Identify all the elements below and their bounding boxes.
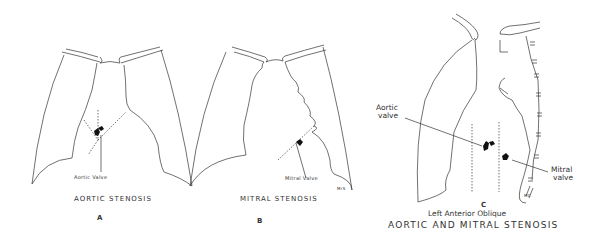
aortic-calcification-a <box>94 126 104 136</box>
figure-a-drawing <box>32 47 192 186</box>
figure-c-initials: MC <box>524 193 531 198</box>
mitral-calcification-c <box>502 153 509 160</box>
figure-b-initials: MrS <box>337 186 346 191</box>
figure-a-title: AORTIC STENOSIS <box>74 195 152 203</box>
figure-c-drawing <box>405 14 548 203</box>
mitral-valve-label-b: Mitral Valve <box>285 175 318 181</box>
aortic-valve-label-c-line2: valve <box>378 111 398 120</box>
aortic-valve-label-a: Aortic Valve <box>74 174 107 180</box>
mitral-calcification-b <box>296 139 303 146</box>
figure-c-letter: C <box>481 201 486 209</box>
figure-a-letter: A <box>97 214 102 222</box>
figure-b-letter: B <box>257 217 262 225</box>
aortic-calcification-c <box>483 141 495 151</box>
figure-b-drawing <box>190 45 352 190</box>
figure-c-title: AORTIC AND MITRAL STENOSIS <box>388 220 559 230</box>
mitral-valve-label-c-line2: valve <box>553 173 573 182</box>
diagram-canvas <box>0 0 604 241</box>
figure-c-view-label: Left Anterior Oblique <box>428 209 506 218</box>
figure-b-title: MITRAL STENOSIS <box>240 195 318 203</box>
